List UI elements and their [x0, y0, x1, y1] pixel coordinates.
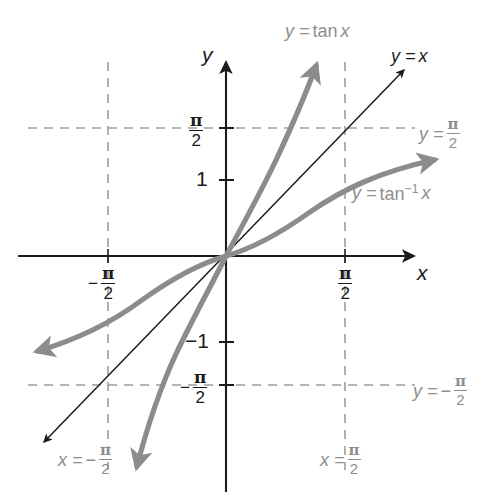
- curve-tangent-lower: [137, 256, 226, 466]
- fraction-pi-over-two: π 2: [193, 369, 207, 407]
- x-tick-label-halfpi: π 2: [338, 265, 352, 303]
- x-tick-label-neg-halfpi: − π 2: [88, 265, 115, 303]
- minus-sign: −: [180, 379, 190, 396]
- label-identity-line: y = x: [391, 47, 428, 65]
- y-tick-label-halfpi: π 2: [189, 112, 203, 150]
- y-tick-label-neg-one: −1: [185, 330, 209, 351]
- fraction-pi-over-two: π 2: [338, 265, 352, 303]
- fraction-pi-over-two: π 2: [447, 117, 460, 151]
- fraction-pi-over-two: π 2: [348, 443, 361, 477]
- label-asymptote-x-pos-halfpi: x = π 2: [320, 443, 361, 477]
- minus-sign: −: [441, 382, 452, 400]
- figure-canvas: y x π 2 1 −1 − π 2 − π 2 π 2: [0, 0, 494, 504]
- minus-sign: −: [88, 275, 98, 292]
- fraction-pi-over-two: π 2: [99, 443, 112, 477]
- label-asymptote-y-neg-halfpi: y = − π 2: [413, 374, 467, 408]
- label-arctangent-curve: y = tan−1 x: [352, 183, 431, 203]
- curve-tangent-upper: [226, 66, 316, 256]
- y-tick-label-neg-halfpi: − π 2: [180, 369, 207, 407]
- y-tick-label-one: 1: [196, 168, 208, 189]
- fraction-pi-over-two: π 2: [454, 374, 467, 408]
- label-asymptote-y-pos-halfpi: y = π 2: [419, 117, 460, 151]
- exponent-minus-one: −1: [405, 182, 419, 196]
- fraction-pi-over-two: π 2: [101, 265, 115, 303]
- x-axis-label: x: [417, 262, 428, 283]
- fraction-pi-over-two: π 2: [189, 112, 203, 150]
- label-asymptote-x-neg-halfpi: x = − π 2: [58, 443, 112, 477]
- minus-sign: −: [86, 451, 97, 469]
- label-tangent-curve: y = tan x: [285, 22, 350, 40]
- y-axis-label: y: [202, 44, 213, 65]
- tan-text: tan−1: [380, 183, 419, 203]
- graph-svg: [0, 0, 494, 504]
